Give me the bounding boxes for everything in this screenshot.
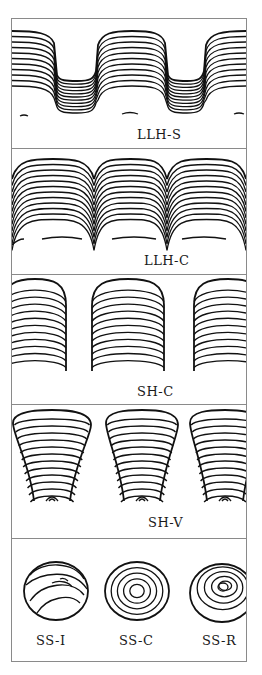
lamina-line [203, 489, 246, 495]
lamina-line [113, 454, 170, 460]
lamina-line [12, 86, 246, 113]
llh-s-diagram [12, 19, 246, 149]
lamina-line [16, 426, 88, 432]
sh-v-diagram [12, 405, 246, 539]
lamina-line [139, 499, 145, 501]
lamina-line [12, 81, 246, 110]
lamina-line [92, 304, 164, 315]
sh-c-diagram [12, 275, 246, 405]
lamina-line [20, 447, 83, 453]
lamina-line [42, 237, 82, 239]
lamina-line [195, 440, 246, 446]
lamina-line [107, 419, 177, 425]
lamina-line [12, 290, 66, 302]
lamina-line [194, 304, 246, 315]
lamina-line [12, 181, 246, 205]
lamina-line [14, 419, 89, 425]
lamina-line [37, 598, 80, 613]
lamina-line [194, 318, 246, 328]
panel-ss: SS-I SS-C SS-R [12, 539, 246, 661]
lamina-ring [212, 576, 238, 596]
lamina-line [194, 290, 246, 302]
lamina-line [199, 468, 246, 474]
lamina-line [194, 297, 246, 308]
panel-llh-c: LLH-C [12, 149, 246, 275]
panel-label-sh-v: SH-V [148, 515, 183, 530]
lamina-line [29, 489, 75, 495]
panel-label-llh-c: LLH-C [144, 253, 189, 268]
lamina-line [92, 290, 164, 302]
lamina-line [194, 311, 246, 321]
lamina-line [192, 426, 246, 432]
lamina-line [112, 447, 172, 453]
lamina-line [118, 482, 165, 488]
lamina-line [92, 325, 164, 334]
panel-label-ss-i: SS-I [36, 633, 66, 648]
lamina-line [26, 475, 78, 481]
lamina-line [19, 440, 85, 446]
lamina-line [194, 354, 246, 362]
panel-label-sh-c: SH-C [137, 384, 174, 399]
lamina-line [12, 203, 246, 231]
lamina-line [108, 426, 175, 432]
lamina-line [20, 115, 28, 116]
lamina-line [92, 318, 164, 328]
lamina-line [23, 461, 81, 467]
panel-label-ss-c: SS-C [119, 633, 153, 648]
lamina-line [117, 475, 167, 481]
panel-sh-v: SH-V [12, 405, 246, 539]
lamina-line [12, 220, 246, 251]
lamina-line [116, 468, 168, 474]
lamina-line [234, 113, 244, 114]
lamina-line [12, 198, 246, 225]
lamina-ring [105, 562, 169, 620]
lamina-line [198, 461, 246, 467]
lamina-ring [130, 584, 144, 597]
lamina-line [22, 454, 83, 460]
panel-llh-s: LLH-S [12, 19, 246, 149]
lamina-line [12, 214, 246, 244]
lamina-line [222, 499, 228, 501]
lamina-line [13, 410, 91, 501]
lamina-ring [111, 568, 163, 615]
lamina-line [112, 237, 156, 239]
lamina-line [196, 447, 246, 453]
lamina-ring [24, 562, 88, 620]
lamina-line [12, 354, 66, 362]
lamina-line [110, 433, 175, 439]
lamina-line [49, 499, 55, 501]
lamina-line [115, 461, 170, 467]
lamina-line [111, 440, 173, 446]
lamina-line [25, 468, 80, 474]
lamina-line [92, 361, 164, 368]
lamina-line [190, 410, 246, 501]
lamina-line [12, 187, 246, 212]
panel-label-llh-s: LLH-S [137, 127, 181, 142]
figure-frame: LLH-S LLH-C SH-C SH-V SS-I SS-C SS-R [11, 18, 247, 662]
lamina-line [17, 433, 86, 439]
lamina-line [92, 297, 164, 308]
lamina-line [106, 410, 178, 501]
lamina-line [12, 361, 66, 368]
lamina-ring [124, 579, 151, 603]
lamina-line [12, 297, 66, 308]
lamina-line [122, 113, 138, 115]
llh-c-diagram [12, 149, 246, 275]
lamina-line [201, 475, 246, 481]
lamina-line [202, 482, 246, 488]
lamina-line [60, 578, 68, 581]
lamina-line [92, 354, 164, 362]
lamina-line [92, 311, 164, 321]
lamina-line [194, 433, 246, 439]
lamina-line [191, 419, 246, 425]
lamina-line [28, 482, 77, 488]
lamina-line [197, 454, 246, 460]
lamina-ring [219, 581, 232, 590]
panel-sh-c: SH-C [12, 275, 246, 405]
lamina-line [120, 489, 165, 495]
panel-label-ss-r: SS-R [202, 633, 236, 648]
lamina-line [12, 209, 246, 238]
lamina-line [194, 361, 246, 368]
lamina-line [182, 237, 226, 239]
